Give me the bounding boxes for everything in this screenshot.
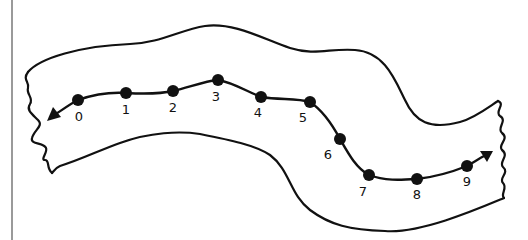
ribbon-top-edge (28, 25, 498, 125)
point-9 (461, 160, 473, 172)
ribbon-diagram: 0 1 2 3 4 5 6 7 8 9 (0, 0, 528, 240)
arrow-left-icon (47, 107, 61, 121)
point-label-0: 0 (75, 109, 83, 124)
point-1 (120, 87, 132, 99)
point-label-8: 8 (413, 187, 421, 202)
point-7 (363, 169, 375, 181)
point-label-4: 4 (254, 105, 262, 120)
point-3 (212, 74, 224, 86)
point-label-1: 1 (122, 102, 130, 117)
point-6 (334, 133, 346, 145)
point-4 (255, 91, 267, 103)
ribbon-right-edge (498, 101, 505, 198)
point-0 (72, 94, 84, 106)
point-label-9: 9 (463, 174, 471, 189)
point-dots (72, 74, 473, 185)
point-label-7: 7 (359, 184, 367, 199)
point-8 (411, 173, 423, 185)
point-label-6: 6 (324, 147, 332, 162)
point-label-3: 3 (212, 89, 220, 104)
point-5 (304, 96, 316, 108)
point-labels: 0 1 2 3 4 5 6 7 8 9 (75, 89, 471, 202)
ribbon-left-edge (26, 72, 52, 173)
point-label-2: 2 (169, 100, 177, 115)
point-2 (167, 85, 179, 97)
point-label-5: 5 (299, 110, 307, 125)
number-line (56, 80, 484, 180)
ribbon-bottom-edge (52, 133, 504, 232)
